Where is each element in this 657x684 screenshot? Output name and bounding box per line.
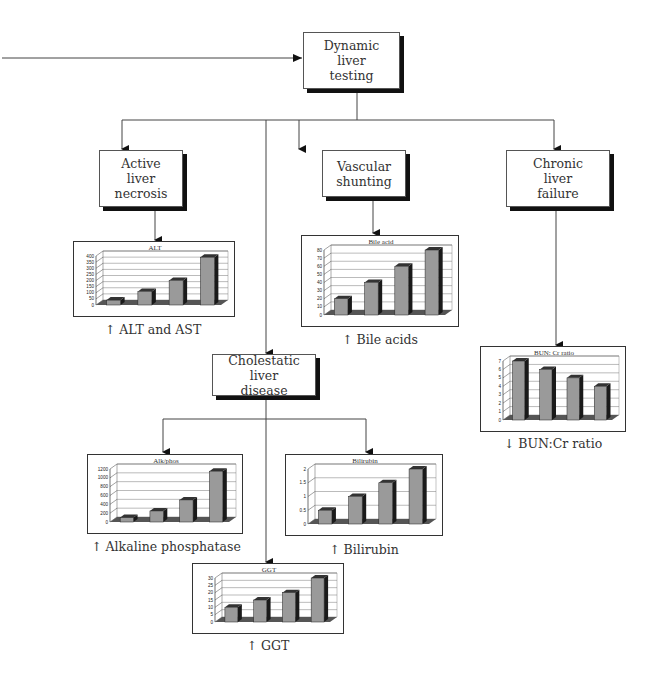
svg-text:20: 20	[317, 296, 323, 301]
caption-alt: ↑ ALT and AST	[93, 322, 213, 337]
svg-text:0.5: 0.5	[300, 508, 307, 513]
node-vascular-shunting: Vascular shunting	[322, 150, 406, 197]
bar	[311, 575, 328, 622]
caption-ggt: ↑ GGT	[208, 638, 328, 653]
svg-text:30: 30	[208, 576, 214, 581]
svg-text:7: 7	[498, 359, 501, 364]
svg-text:60: 60	[317, 264, 323, 269]
bar	[282, 590, 299, 622]
bar	[567, 375, 583, 420]
svg-text:300: 300	[86, 266, 94, 271]
chart-alt: ALT050100150200250300350400	[73, 241, 235, 317]
caption-alkaline-phosphatase: ↑ Alkaline phosphatase	[88, 539, 244, 554]
svg-text:15: 15	[208, 598, 214, 603]
svg-text:1: 1	[303, 494, 306, 499]
bar	[318, 507, 336, 524]
svg-text:25: 25	[208, 583, 214, 588]
svg-text:1000: 1000	[98, 475, 109, 480]
svg-text:0: 0	[91, 303, 94, 308]
svg-text:40: 40	[317, 280, 323, 285]
svg-text:600: 600	[100, 493, 108, 498]
bar	[512, 358, 528, 420]
svg-text:50: 50	[317, 272, 323, 277]
bar	[209, 468, 226, 522]
chart-ggt: GGT051015202530	[192, 563, 344, 634]
svg-text:10: 10	[317, 304, 323, 309]
svg-text:2: 2	[498, 401, 501, 406]
svg-text:70: 70	[317, 256, 323, 261]
svg-text:5: 5	[210, 612, 213, 617]
caption-bun-cr-ratio: ↓ BUN:Cr ratio	[490, 436, 616, 451]
bar	[180, 497, 197, 522]
svg-text:5: 5	[498, 375, 501, 380]
node-chronic-liver-failure: Chronic liver failure	[506, 150, 610, 207]
bar	[409, 466, 427, 524]
node-cholestatic-liver-disease: Cholestatic liver disease	[212, 354, 316, 396]
svg-text:0: 0	[303, 522, 306, 527]
bar	[200, 254, 218, 305]
bar	[425, 247, 443, 315]
node-dynamic-liver-testing: Dynamic liver testing	[303, 32, 400, 89]
bar	[540, 366, 556, 420]
svg-text:400: 400	[86, 254, 94, 259]
svg-text:2: 2	[303, 467, 306, 472]
svg-text:1.5: 1.5	[300, 480, 307, 485]
svg-text:400: 400	[100, 502, 108, 507]
bar	[594, 383, 610, 420]
svg-text:350: 350	[86, 260, 94, 265]
svg-text:150: 150	[86, 284, 94, 289]
svg-text:250: 250	[86, 272, 94, 277]
svg-text:50: 50	[89, 296, 95, 301]
svg-text:0: 0	[210, 620, 213, 625]
bar	[225, 604, 242, 622]
bar	[138, 289, 156, 305]
svg-text:10: 10	[208, 605, 214, 610]
node-label: Active liver necrosis	[115, 156, 168, 201]
caption-bile-acids: ↑ Bile acids	[320, 332, 440, 347]
node-label: Dynamic liver testing	[324, 38, 379, 83]
svg-text:100: 100	[86, 290, 94, 295]
node-active-liver-necrosis: Active liver necrosis	[99, 150, 183, 207]
svg-text:1: 1	[498, 409, 501, 414]
node-label: Vascular shunting	[336, 159, 392, 189]
svg-text:200: 200	[86, 278, 94, 283]
bar	[107, 297, 125, 305]
bar	[150, 508, 167, 522]
bar	[365, 280, 383, 316]
bar	[395, 263, 413, 315]
bar	[120, 515, 137, 522]
caption-bilirubin: ↑ Bilirubin	[304, 542, 424, 557]
chart-alk-phos: Alk/phos020040060080010001200	[87, 454, 243, 534]
svg-text:80: 80	[317, 248, 323, 253]
svg-text:20: 20	[208, 590, 214, 595]
svg-text:30: 30	[317, 288, 323, 293]
svg-text:4: 4	[498, 384, 501, 389]
bar	[379, 480, 397, 524]
svg-text:6: 6	[498, 367, 501, 372]
chart-bilirubin: Bilirubin00.511.52	[285, 454, 443, 536]
svg-text:200: 200	[100, 511, 108, 516]
bar	[334, 296, 352, 315]
bar	[169, 278, 187, 306]
svg-text:0: 0	[319, 313, 322, 318]
node-label: Cholestatic liver disease	[213, 353, 315, 398]
svg-text:0: 0	[105, 520, 108, 525]
bar	[349, 494, 367, 525]
bar	[254, 597, 271, 622]
node-label: Chronic liver failure	[533, 156, 583, 201]
svg-text:1200: 1200	[98, 467, 109, 472]
chart-bun-cr-ratio: BUN: Cr ratio01234567	[480, 346, 626, 432]
chart-bile-acid: Bile acid01020304050607080	[301, 235, 459, 327]
svg-text:800: 800	[100, 484, 108, 489]
svg-text:3: 3	[498, 392, 501, 397]
liver-testing-flowchart: Dynamic liver testing Active liver necro…	[0, 0, 657, 684]
svg-text:0: 0	[498, 418, 501, 423]
